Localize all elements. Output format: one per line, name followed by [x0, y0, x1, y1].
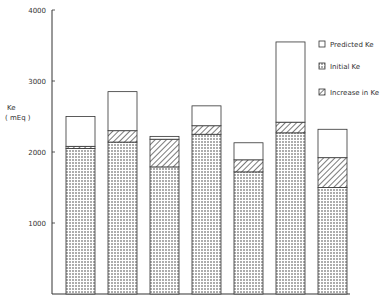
- legend-label: Predicted Ke: [330, 41, 374, 49]
- legend-item-predicted: Predicted Ke: [319, 41, 374, 49]
- y-tick-label: 3000: [28, 78, 46, 86]
- legend-label: Initial Ke: [330, 63, 360, 71]
- bar-4: [192, 106, 221, 294]
- bar-segment-empty: [66, 117, 95, 147]
- legend-swatch-empty-icon: [319, 41, 325, 47]
- bar-segment-dots: [150, 167, 179, 294]
- bar-segment-hatch: [318, 158, 347, 188]
- y-tick-label: 1000: [28, 220, 46, 228]
- bar-segment-empty: [234, 143, 263, 160]
- bars: [66, 42, 347, 294]
- y-ticks: 1000200030004000: [28, 7, 55, 228]
- bar-segment-dots: [276, 133, 305, 294]
- y-axis-label-line1: Ke: [7, 104, 16, 112]
- bar-segment-empty: [192, 106, 221, 126]
- legend-swatch-dots-icon: [319, 63, 325, 69]
- bar-5: [234, 143, 263, 294]
- bar-segment-empty: [108, 92, 137, 131]
- bar-segment-hatch: [192, 126, 221, 135]
- bar-segment-hatch: [234, 160, 263, 172]
- bar-segment-empty: [150, 136, 179, 139]
- bar-segment-hatch: [276, 122, 305, 133]
- bar-6: [276, 42, 305, 294]
- legend-swatch-hatch-icon: [319, 89, 325, 95]
- bar-segment-dots: [108, 142, 137, 294]
- bar-segment-hatch: [150, 139, 179, 167]
- bar-1: [66, 117, 95, 295]
- stacked-bar-chart: 1000200030004000 Ke ( mEq ) Predicted Ke…: [0, 0, 384, 301]
- bar-3: [150, 136, 179, 294]
- bar-segment-dots: [234, 172, 263, 294]
- bar-segment-dots: [318, 188, 347, 295]
- y-tick-label: 2000: [28, 149, 46, 157]
- legend-item-increase: Increase in Ke: [319, 89, 379, 97]
- bar-segment-dots: [192, 134, 221, 294]
- bar-segment-dots: [66, 148, 95, 294]
- bar-segment-hatch: [108, 131, 137, 142]
- y-tick-label: 4000: [28, 7, 46, 15]
- legend: Predicted Ke Initial Ke Increase in Ke: [319, 41, 379, 97]
- bar-segment-empty: [276, 42, 305, 122]
- legend-item-initial: Initial Ke: [319, 63, 360, 71]
- y-axis-label: Ke ( mEq ): [5, 104, 31, 122]
- legend-label: Increase in Ke: [330, 89, 379, 97]
- bar-7: [318, 129, 347, 294]
- bar-segment-empty: [318, 129, 347, 157]
- bar-2: [108, 92, 137, 294]
- y-axis-label-line2: ( mEq ): [5, 114, 31, 122]
